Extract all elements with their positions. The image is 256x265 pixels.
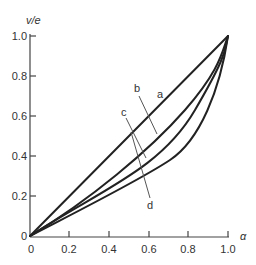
x-axis-label: α (240, 230, 247, 242)
x-tick-label: 1.0 (220, 243, 235, 255)
y-axis-label: v/e (26, 14, 41, 26)
x-tick-label: 0.6 (141, 243, 156, 255)
x-tick-label: 0.8 (180, 243, 195, 255)
label-d: d (147, 199, 153, 211)
label-b: b (134, 82, 140, 94)
curve-a (30, 36, 228, 236)
y-tick-label: 0.8 (12, 70, 27, 82)
chart-svg: 0 0.2 0.4 0.6 0.8 1.0 v/e 0 0.2 0.4 0.6 … (0, 0, 256, 265)
y-tick-label: 0.6 (12, 110, 27, 122)
chart: 0 0.2 0.4 0.6 0.8 1.0 v/e 0 0.2 0.4 0.6 … (0, 0, 256, 265)
y-tick-label: 0.2 (12, 190, 27, 202)
label-a: a (157, 88, 164, 100)
label-c: c (121, 106, 127, 118)
leader-d (131, 132, 150, 198)
y-tick-label: 1.0 (12, 30, 27, 42)
leader-b (139, 96, 157, 134)
x-tick-label: 0.2 (61, 243, 76, 255)
y-tick-label: 0 (21, 230, 27, 242)
leader-c (126, 118, 146, 158)
x-tick-label: 0 (28, 243, 34, 255)
y-tick-label: 0.4 (12, 150, 27, 162)
x-tick-label: 0.4 (101, 243, 116, 255)
